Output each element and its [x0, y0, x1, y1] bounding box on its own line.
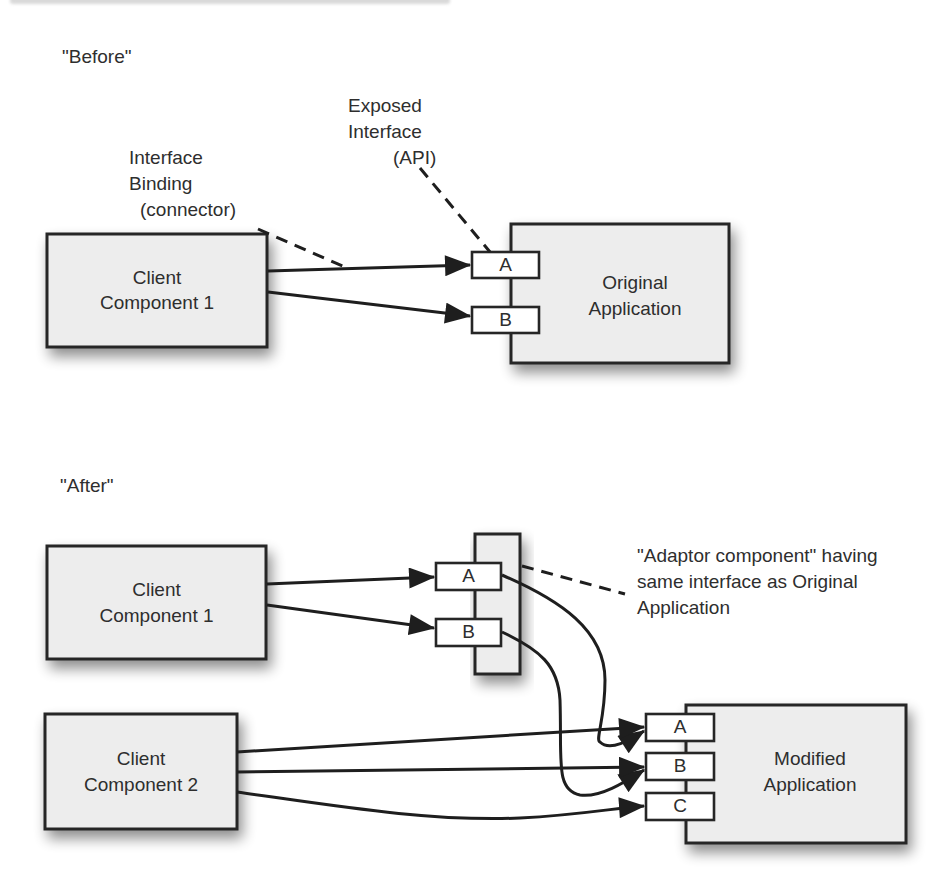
modified-port-c [646, 793, 714, 820]
modified-application-box [686, 705, 906, 843]
client-component-1-box [47, 234, 267, 347]
original-application-box [511, 224, 729, 363]
client1-to-adaptor-a [267, 577, 434, 584]
adaptor-note-leader [522, 566, 625, 594]
client2-to-modified-a [237, 727, 644, 752]
adaptor-b-to-modified-c-curve [502, 632, 644, 795]
exposed-interface-leader [420, 168, 490, 252]
client2-to-modified-b [237, 767, 644, 772]
adaptor-a-to-modified-a [502, 575, 644, 746]
after-client-component-1-box [47, 546, 266, 659]
port-b [472, 307, 539, 333]
adaptor-port-b [436, 619, 501, 646]
port-a [472, 252, 539, 278]
architecture-diagram [0, 0, 949, 893]
adaptor-port-a [436, 563, 501, 590]
modified-port-a [646, 714, 714, 741]
after-section [45, 534, 906, 843]
before-section [47, 168, 729, 363]
modified-port-b [646, 753, 714, 780]
interface-binding-leader [258, 229, 347, 268]
binding-arrow-a [268, 265, 470, 271]
client1-to-adaptor-b [267, 605, 434, 628]
client-component-2-box [45, 714, 237, 829]
adaptor-component-box [475, 534, 520, 674]
binding-arrow-b [268, 292, 470, 316]
